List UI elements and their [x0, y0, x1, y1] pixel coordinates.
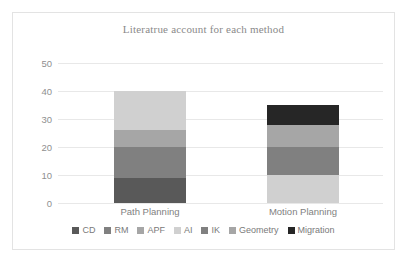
y-axis-tick-label: 0 [47, 198, 52, 209]
legend-label: APF [147, 225, 165, 235]
legend-swatch-icon [137, 227, 144, 234]
y-axis-tick-label: 10 [41, 170, 52, 181]
legend-item[interactable]: Geometry [229, 225, 279, 235]
gridline [58, 203, 383, 204]
legend-item[interactable]: AI [174, 225, 193, 235]
gridline [58, 63, 383, 64]
chart-container: Literatrue account for each method 01020… [12, 12, 395, 250]
chart-legend: CDRMAPFAIIKGeometryMigration [13, 225, 394, 235]
legend-swatch-icon [288, 227, 295, 234]
bar-segment[interactable] [114, 147, 186, 178]
legend-label: IK [211, 225, 220, 235]
legend-item[interactable]: CD [72, 225, 95, 235]
legend-item[interactable]: RM [104, 225, 128, 235]
bar-segment[interactable] [114, 91, 186, 130]
stacked-bar[interactable] [267, 105, 339, 203]
legend-label: RM [114, 225, 128, 235]
y-axis-tick-label: 40 [41, 86, 52, 97]
legend-label: Geometry [239, 225, 279, 235]
legend-label: Migration [298, 225, 335, 235]
legend-swatch-icon [104, 227, 111, 234]
legend-item[interactable]: IK [201, 225, 220, 235]
plot-area: 01020304050 Path PlanningMotion Planning [58, 63, 383, 203]
y-axis-tick-label: 20 [41, 142, 52, 153]
bar-segment[interactable] [114, 178, 186, 203]
legend-item[interactable]: Migration [288, 225, 335, 235]
legend-label: CD [82, 225, 95, 235]
x-axis-category-label: Path Planning [90, 206, 210, 217]
legend-item[interactable]: APF [137, 225, 165, 235]
bar-segment[interactable] [267, 175, 339, 203]
bar-segment[interactable] [267, 147, 339, 175]
chart-title: Literatrue account for each method [13, 23, 394, 35]
y-axis-tick-label: 50 [41, 58, 52, 69]
y-axis-tick-label: 30 [41, 114, 52, 125]
bar-segment[interactable] [267, 125, 339, 147]
legend-label: AI [184, 225, 193, 235]
bar-segment[interactable] [114, 130, 186, 147]
bar-segment[interactable] [267, 105, 339, 125]
x-axis-category-label: Motion Planning [243, 206, 363, 217]
gridline [58, 91, 383, 92]
legend-swatch-icon [201, 227, 208, 234]
legend-swatch-icon [72, 227, 79, 234]
legend-swatch-icon [174, 227, 181, 234]
legend-swatch-icon [229, 227, 236, 234]
stacked-bar[interactable] [114, 91, 186, 203]
